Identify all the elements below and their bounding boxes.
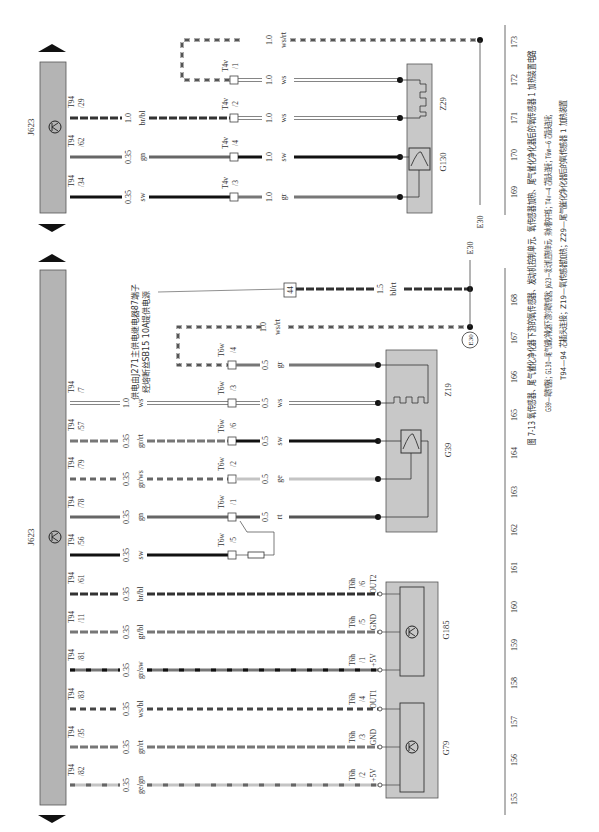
svg-text:/82: /82 [77, 766, 86, 776]
component-g185-g79: G185 G79 [382, 582, 451, 798]
svg-text:T6h: T6h [348, 731, 357, 743]
svg-text:T94: T94 [67, 381, 76, 393]
page-number: 171 [510, 112, 519, 124]
svg-text:0.35: 0.35 [122, 625, 131, 639]
svg-text:/2: /2 [229, 461, 238, 467]
svg-text:1.0: 1.0 [259, 322, 268, 332]
page-number: 165 [510, 409, 519, 421]
page-number: 170 [510, 149, 519, 161]
svg-text:GND: GND [369, 613, 378, 630]
page-number: 157 [510, 716, 519, 728]
page-number: 159 [510, 639, 519, 651]
svg-text:/79: /79 [77, 459, 86, 469]
arrow-down-icon [38, 815, 66, 823]
svg-text:0.35: 0.35 [122, 663, 131, 677]
page-number: 162 [510, 524, 519, 536]
svg-text:1.0: 1.0 [122, 398, 131, 408]
svg-text:/61: /61 [77, 574, 86, 584]
svg-text:0.35: 0.35 [124, 190, 133, 204]
svg-text:sw: sw [136, 550, 145, 559]
svg-text:经熔断丝SB15 10A提供电源: 经熔断丝SB15 10A提供电源 [141, 291, 151, 394]
wire-loop-ws-rt-top: 1.0 ws/rt T4v /1 1.0 ws [182, 31, 483, 85]
svg-text:/62: /62 [77, 137, 86, 147]
svg-text:ws: ws [279, 76, 288, 85]
svg-text:bl/rt: bl/rt [389, 282, 398, 296]
page-number: 173 [510, 36, 519, 48]
supply-note: 供电由J271主供电继电器87端子 经熔断丝SB15 10A提供电源 [130, 284, 284, 400]
svg-text:T94: T94 [67, 611, 76, 623]
svg-text:gr: gr [279, 193, 288, 200]
svg-text:OUT1: OUT1 [369, 689, 378, 708]
figure-caption: 图 7-13 氧传感器、尾气催化净化器下游的氧传感器、发动机控制单元、氧传感器加… [526, 50, 568, 445]
svg-text:/6: /6 [358, 581, 367, 587]
svg-text:/4: /4 [231, 140, 240, 146]
svg-text:/56: /56 [77, 536, 86, 546]
svg-text:/2: /2 [358, 772, 367, 778]
svg-text:/34: /34 [77, 177, 86, 187]
svg-text:T94: T94 [67, 534, 76, 546]
page-number: 166 [510, 371, 519, 383]
svg-text:ws/bl: ws/bl [136, 700, 145, 718]
svg-text:0.5: 0.5 [261, 398, 270, 408]
svg-text:/4: /4 [358, 696, 367, 702]
svg-text:1.0: 1.0 [124, 113, 133, 123]
svg-text:/1: /1 [358, 657, 367, 663]
svg-text:T4v: T4v [221, 177, 230, 189]
component-z29-g130: Z29 G130 [400, 64, 448, 213]
page-number: 158 [510, 677, 519, 689]
svg-text:T4v: T4v [221, 137, 230, 149]
svg-text:T6w: T6w [217, 533, 226, 547]
svg-text:0.5: 0.5 [261, 512, 270, 522]
page-number: 169 [510, 186, 519, 198]
svg-text:GND: GND [369, 728, 378, 745]
page-number: 155 [510, 793, 519, 805]
svg-text:1.0: 1.0 [265, 152, 274, 162]
svg-text:gn: gn [136, 513, 145, 521]
svg-text:gr/rt: gr/rt [136, 433, 145, 448]
svg-text:gr/sw: gr/sw [136, 661, 145, 679]
wire-t94-81: T94 /81 0.35 gr/sw T6h /1 +5V [67, 649, 382, 679]
svg-text:/57: /57 [77, 421, 86, 431]
svg-text:44: 44 [286, 286, 295, 294]
wire-t94-56: T94 /56 0.35 sw T6w /5 [67, 533, 264, 562]
sensor-icon [409, 148, 430, 170]
arrow-up-icon [38, 44, 66, 52]
svg-text:gr/ws: gr/ws [136, 470, 145, 488]
ecu-j623-bottom: J623 [26, 254, 66, 823]
wire-t94-29: T94 /29 1.0 br/bl T4v /2 1.0 ws [67, 96, 403, 126]
svg-text:/5: /5 [229, 537, 238, 543]
component-z19-g39: Z19 G39 [378, 350, 453, 532]
svg-text:T6w: T6w [217, 495, 226, 509]
svg-text:图 7-13 氧传感器、尾气催化净化器下游的氧传感器、发动: 图 7-13 氧传感器、尾气催化净化器下游的氧传感器、发动机控制单元、氧传感器加… [526, 50, 537, 445]
svg-text:gr/rt: gr/rt [136, 739, 145, 754]
svg-text:T94: T94 [67, 726, 76, 738]
svg-text:/83: /83 [77, 690, 86, 700]
svg-text:0.35: 0.35 [122, 702, 131, 716]
page-number: 167 [510, 332, 519, 344]
svg-text:T94: T94 [67, 96, 76, 108]
ground-e30-top: E30 [476, 40, 485, 228]
svg-text:1.0: 1.0 [265, 35, 274, 45]
wire-t94-57: T94 /57 0.35 gr/rt T6w /6 0.5 sw [67, 419, 381, 448]
svg-text:供电由J271主供电继电器87端子: 供电由J271主供电继电器87端子 [130, 284, 140, 400]
svg-text:0.35: 0.35 [122, 472, 131, 486]
page-number: 172 [510, 74, 519, 86]
svg-text:0.35: 0.35 [122, 510, 131, 524]
wire-t94-61: T94 /61 0.35 br/bl T6h /6 OUT2 [67, 572, 382, 602]
svg-text:0.35: 0.35 [122, 434, 131, 448]
wire-t94-62: T94 /62 0.35 gn T4v /4 1.0 sw [67, 135, 403, 164]
svg-text:0.35: 0.35 [122, 740, 131, 754]
page-number: 163 [510, 486, 519, 498]
ecu-label-bottom: J623 [26, 528, 36, 546]
svg-text:1.0: 1.0 [265, 113, 274, 123]
wire-t94-82: T94 /82 0.35 ge/gn T6h /2 +5V [67, 764, 382, 794]
arrow-down-icon [38, 224, 66, 232]
svg-text:ws: ws [136, 399, 145, 408]
svg-text:ws: ws [279, 114, 288, 123]
pedal-wires: T94 /61 0.35 br/bl T6h /6 OUT2 T94 /11 0… [67, 572, 382, 794]
wiring-diagram: J623 1.0 ws/rt T4v /1 1.0 ws T94 /29 1.0… [0, 0, 599, 832]
svg-text:0.5: 0.5 [261, 360, 270, 370]
svg-text:T94: T94 [67, 572, 76, 584]
svg-text:G79: G79 [441, 741, 451, 756]
svg-text:E30: E30 [467, 334, 475, 346]
